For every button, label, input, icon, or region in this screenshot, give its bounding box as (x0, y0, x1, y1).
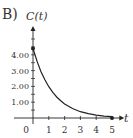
x-tick-label: 3 (78, 125, 84, 135)
x-tick-label: 0 (23, 125, 29, 135)
series-line (33, 49, 112, 117)
y-tick-label: 4.00 (11, 51, 29, 60)
endpoint-marker (31, 46, 35, 50)
endpoint-marker (110, 116, 114, 120)
problem-label: B) (2, 6, 18, 22)
x-tick-label: 4 (93, 125, 99, 135)
y-tick-label: 3.00 (11, 67, 29, 76)
y-axis-label: C(t) (26, 10, 47, 23)
x-tick-label: 5 (109, 125, 115, 135)
x-tick-label: 1 (46, 125, 52, 135)
x-axis-label: t (124, 112, 129, 125)
y-tick-label: 2.00 (11, 82, 29, 91)
chart: B) C(t) t 0123451.002.003.004.00 (0, 0, 133, 138)
x-tick-label: 2 (62, 125, 68, 135)
y-tick-label: 1.00 (11, 98, 29, 107)
y-axis-arrow (31, 26, 36, 31)
